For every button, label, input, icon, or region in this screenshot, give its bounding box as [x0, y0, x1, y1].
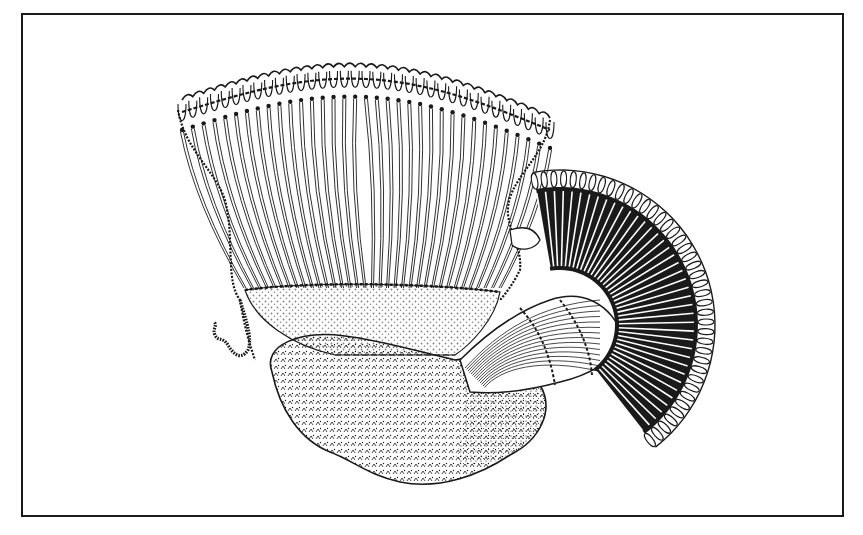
wavy-filament — [214, 300, 250, 356]
specimen-drawing — [0, 0, 863, 535]
large-funnel — [178, 63, 554, 288]
illustration-canvas — [0, 0, 863, 535]
